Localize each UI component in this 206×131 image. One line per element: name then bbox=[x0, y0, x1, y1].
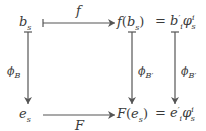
base: e bbox=[170, 105, 178, 120]
sub: B bbox=[15, 71, 21, 80]
label-phi-Bprime-right: ϕB′ bbox=[181, 66, 196, 77]
middle-arrow-phi-Bprime bbox=[128, 32, 136, 104]
node-sub: s bbox=[27, 115, 31, 124]
node-e-s: es bbox=[19, 107, 31, 120]
label-f: f bbox=[76, 4, 81, 17]
arrow-label: F bbox=[75, 118, 84, 131]
equals-sign: = bbox=[155, 105, 166, 120]
label-phi-B: ϕB bbox=[7, 66, 20, 77]
equals-sign: = bbox=[155, 13, 166, 28]
node-e-prime-phi: = e′iφis bbox=[155, 106, 195, 119]
label-F: F bbox=[75, 119, 84, 131]
func-name: F bbox=[117, 106, 126, 121]
left-arrow-phi-B bbox=[24, 32, 32, 104]
label-phi-Bprime-middle: ϕB′ bbox=[138, 66, 153, 77]
node-F-of-e-s: F(es) bbox=[117, 107, 148, 120]
phi: ϕ bbox=[7, 65, 15, 78]
top-arrow-f bbox=[43, 19, 115, 27]
sub: B′ bbox=[189, 71, 197, 80]
node-b-s: bs bbox=[19, 15, 31, 28]
phi-sup: i bbox=[191, 105, 194, 114]
phi: φ bbox=[182, 105, 191, 120]
arg-base: b bbox=[127, 14, 135, 29]
node-b-prime-phi: = b′iφis bbox=[155, 14, 196, 27]
phi: ϕ bbox=[181, 65, 189, 78]
phi: ϕ bbox=[138, 65, 146, 78]
node-sub: s bbox=[27, 23, 31, 32]
node-f-of-b-s: f(bs) bbox=[117, 15, 144, 28]
sub: B′ bbox=[146, 71, 154, 80]
prime: ′ bbox=[178, 105, 180, 114]
phi-sub: s bbox=[191, 22, 195, 31]
prime: ′ bbox=[178, 13, 180, 22]
arg-base: e bbox=[131, 106, 139, 121]
arrow-label: f bbox=[76, 3, 81, 18]
right-arrow-phi-Bprime bbox=[171, 32, 179, 104]
node-base: e bbox=[19, 106, 27, 121]
phi-sup: i bbox=[192, 13, 195, 22]
phi-sub: s bbox=[191, 114, 195, 123]
